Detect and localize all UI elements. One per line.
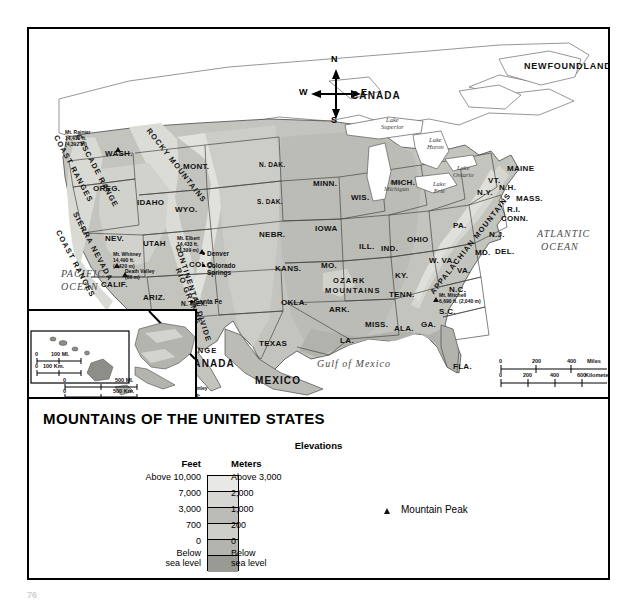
peak-marker-mtrainier [115, 147, 121, 152]
compass-south-label: S [331, 115, 337, 125]
hawaii-scale-mile-1: 100 MI. [51, 352, 69, 358]
state-label-la: LA. [340, 337, 354, 345]
meters-value-0: Above 3,000 [231, 469, 341, 485]
lake-label-4: LakeMichigan [384, 179, 409, 193]
city-label-coloradosprings: ColoradoSprings [207, 263, 236, 277]
city-label-denver: Denver [207, 251, 229, 258]
peak-label-mtelbert: Mt. Elbert14,433 ft.(4,399 m) [177, 236, 200, 253]
meters-value-2: 1,000 [231, 501, 341, 517]
compass-north-label: N [331, 54, 338, 64]
feet-header: Feet [115, 458, 201, 469]
elevations-heading: Elevations [29, 440, 608, 451]
elevation-feet-column: Feet Above 10,0007,0003,0007000Belowsea … [115, 458, 201, 569]
state-label-nev: NEV. [105, 235, 124, 243]
feet-value-2: 3,000 [115, 501, 201, 517]
range-label-ozark: OZARK [333, 277, 366, 285]
region-label-newfoundland: NEWFOUNDLAND [524, 62, 608, 71]
legend-panel: MOUNTAINS OF THE UNITED STATES Elevation… [29, 397, 608, 578]
state-label-texas: TEXAS [259, 340, 287, 348]
hawaii-scale-km-0: 0 [35, 364, 38, 370]
lake-label-0: LakeSuperior [381, 117, 404, 131]
ocean-label-gulfofmexico-4: Gulf of Mexico [317, 359, 391, 370]
elevation-key: Feet Above 10,0007,0003,0007000Belowsea … [115, 458, 345, 574]
state-label-minn: MINN. [313, 180, 337, 188]
state-label-del: DEL. [495, 248, 514, 256]
city-label-santafe: Santa Fe [195, 299, 222, 306]
state-label-ill: ILL. [359, 243, 374, 251]
main-scale-mile-tick-0: 0 [499, 359, 502, 365]
map-page: N S E W WASH.OREG.IDAHOMONT.WYO.NEV.UTAH… [0, 0, 637, 612]
state-label-kans: KANS. [275, 265, 301, 273]
state-label-conn: CONN. [501, 215, 528, 223]
feet-value-4: 0 [115, 533, 201, 549]
state-label-ky: KY. [395, 272, 408, 280]
lake-label-1: LakeHuron [427, 137, 444, 151]
peak-label-deathvalley: Death Valley(86 m) [125, 269, 154, 281]
peak-label-mtwhitney: Mt. Whitney14,490 ft.(4,420 m) [113, 252, 141, 269]
state-label-va: VA. [457, 267, 471, 275]
peak-label-mtrainier: Mt. Rainier14,410 ft.(4,392 m) [65, 130, 91, 147]
mountain-peak-label: Mountain Peak [401, 504, 468, 515]
alaska-scale-km-0: 0 [63, 389, 66, 395]
country-label-mexico-1: MEXICO [255, 376, 301, 387]
alaska-scale-mile-0: 0 [63, 378, 66, 384]
state-label-sc: S.C. [439, 308, 456, 316]
state-label-sdak: S. DAK. [257, 199, 283, 206]
state-label-ri: R.I. [507, 206, 521, 214]
meters-row-list: Above 3,0002,0001,0002000Belowsea level [231, 469, 341, 569]
mountain-peak-key: Mountain Peak [401, 504, 468, 515]
lake-label-3: LakeErie [433, 181, 446, 195]
state-label-nj: N.J. [489, 231, 505, 239]
main-scale-km-tick-1: 200 [523, 373, 532, 379]
map-frame: N S E W WASH.OREG.IDAHOMONT.WYO.NEV.UTAH… [27, 27, 610, 580]
range-label-mountains: MOUNTAINS [325, 287, 381, 295]
main-scale-mile-tick-1: 200 [532, 359, 541, 365]
meters-value-3: 200 [231, 517, 341, 533]
state-label-maine: MAINE [507, 165, 534, 173]
feet-value-5: Belowsea level [115, 549, 201, 569]
main-scale-miles-label: Miles [587, 359, 601, 365]
state-label-pa: PA. [453, 222, 467, 230]
page-number: 76 [27, 590, 37, 600]
country-label-canada-0: CANADA [351, 91, 401, 102]
main-scale-km-label: Kilometers [585, 373, 608, 379]
city-dot-coloradosprings [202, 264, 205, 267]
state-label-wyo: WYO. [175, 206, 198, 214]
state-label-wis: WIS. [351, 194, 370, 202]
alaska-scale-mile-1: 500 MI. [115, 378, 133, 384]
ocean-label-atlantic-2: ATLANTIC [537, 229, 590, 240]
state-label-md: MD. [475, 249, 491, 257]
state-label-ohio: OHIO [407, 236, 429, 244]
state-label-miss: MISS. [365, 321, 388, 329]
meters-header: Meters [231, 458, 341, 469]
state-label-tenn: TENN. [389, 291, 415, 299]
state-label-mass: MASS. [516, 195, 543, 203]
map-canvas[interactable]: N S E W WASH.OREG.IDAHOMONT.WYO.NEV.UTAH… [29, 29, 608, 397]
main-scale-mile-tick-2: 400 [567, 359, 576, 365]
feet-row-list: Above 10,0007,0003,0007000Belowsea level [115, 469, 201, 569]
state-label-mont: MONT. [183, 163, 209, 171]
state-label-okla: OKLA. [281, 299, 307, 307]
state-label-ind: IND. [381, 245, 398, 253]
state-label-ala: ALA. [394, 325, 414, 333]
main-scale-km-tick-2: 400 [550, 373, 559, 379]
peak-marker-mtelbert [199, 249, 205, 254]
main-scale-km-tick-0: 0 [499, 373, 502, 379]
mountain-peak-icon [384, 508, 390, 514]
meters-value-4: 0 [231, 533, 341, 549]
hawaii-scale-km-1: 100 Km. [43, 364, 64, 370]
state-label-ga: GA. [421, 321, 436, 329]
state-label-ark: ARK. [329, 306, 350, 314]
compass-west-label: W [299, 87, 308, 97]
hawaii-scale-mile-0: 0 [35, 352, 38, 358]
elevation-meters-column: Meters Above 3,0002,0001,0002000Belowsea… [231, 458, 341, 569]
state-label-calif: CALIF. [101, 281, 128, 289]
state-label-nebr: NEBR. [259, 231, 285, 239]
state-label-ny: N.Y. [477, 189, 493, 197]
feet-value-3: 700 [115, 517, 201, 533]
peak-label-mtmitchell: Mt. Mitchell6,690 ft. (2,040 m) [439, 293, 481, 305]
meters-value-5: Belowsea level [231, 549, 341, 569]
lake-label-2: LakeOntario [453, 165, 474, 179]
city-dot-santafe [190, 300, 193, 303]
state-label-nh: N.H. [499, 184, 516, 192]
